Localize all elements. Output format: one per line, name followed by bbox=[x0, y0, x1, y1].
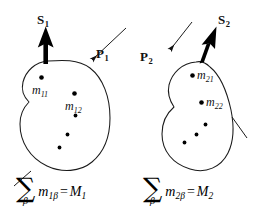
spin-vector-2-arrow bbox=[200, 27, 217, 64]
mass-dot-2-5 bbox=[183, 141, 187, 145]
mass-dot-2-4 bbox=[195, 133, 199, 137]
spin-vector-2-label: S2 bbox=[218, 13, 229, 26]
mass-dot-m12 bbox=[72, 91, 77, 96]
mass-label-m22: m22 bbox=[206, 96, 223, 108]
summation-symbol-2: ∑ β bbox=[143, 177, 162, 206]
momentum-vector-1-label: P1 bbox=[96, 47, 108, 60]
mass-dot-m22 bbox=[199, 100, 204, 105]
equation-body-2: ∑ β m2β=M2 bbox=[143, 177, 213, 206]
mass-label-m11: m11 bbox=[32, 84, 48, 96]
summation-symbol-1: ∑ β bbox=[16, 177, 35, 206]
equation-body-1: ∑ β m1β=M1 bbox=[16, 177, 86, 206]
momentum-vector-2-arrow bbox=[170, 22, 192, 50]
mass-label-m21: m21 bbox=[197, 69, 214, 81]
mass-dot-2-3 bbox=[204, 123, 208, 127]
equation-2-body: m2β=M2 bbox=[165, 184, 213, 200]
panel-2-group bbox=[162, 22, 247, 171]
spin-vector-1-label: S1 bbox=[37, 13, 48, 26]
mass-label-m12: m12 bbox=[65, 100, 82, 112]
momentum-vector-2-label: P2 bbox=[140, 50, 152, 63]
mass-dot-1-4 bbox=[66, 133, 70, 137]
body-2-tick bbox=[232, 117, 247, 138]
mass-dot-m21 bbox=[190, 73, 195, 78]
mass-dot-1-5 bbox=[58, 146, 62, 150]
body-1-outline bbox=[20, 60, 110, 170]
equation-1-body: m1β=M1 bbox=[38, 184, 86, 200]
spin-vector-1-arrow bbox=[38, 27, 54, 65]
mass-dot-m11 bbox=[39, 75, 44, 80]
